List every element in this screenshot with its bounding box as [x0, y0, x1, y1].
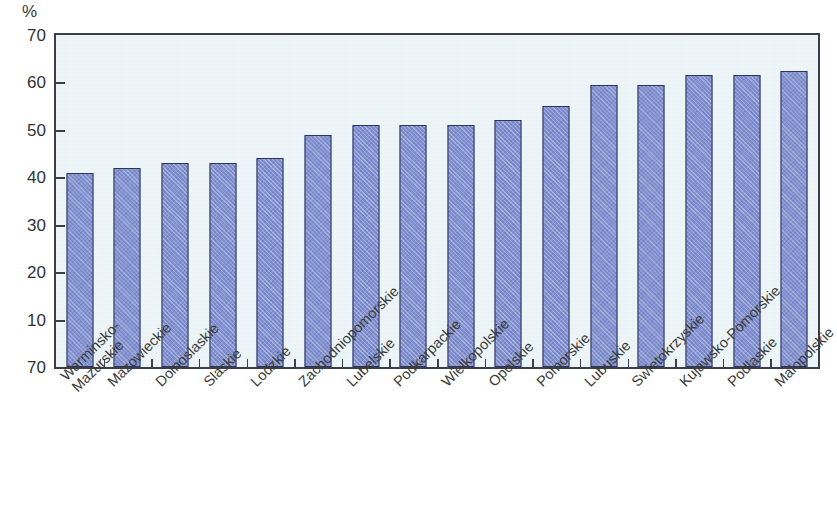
y-axis-labels: 7060504030201070	[0, 0, 46, 508]
x-axis-tick-mark	[580, 359, 582, 367]
x-axis-tick-mark	[723, 359, 725, 367]
x-axis-tick-mark	[342, 359, 344, 367]
x-axis-tick-mark	[294, 359, 296, 367]
x-axis-tick-mark	[675, 359, 677, 367]
x-axis-tick-mark	[532, 359, 534, 367]
x-axis-tick-mark	[485, 359, 487, 367]
y-axis-tick-label: 70	[2, 359, 46, 376]
x-axis-tick-mark	[628, 359, 630, 367]
x-axis-tick-mark	[437, 359, 439, 367]
x-axis-tick-mark	[199, 359, 201, 367]
x-axis-tick-mark	[389, 359, 391, 367]
x-axis-tick-mark	[770, 359, 772, 367]
y-axis-tick-label: 60	[2, 74, 46, 91]
y-axis-tick-label: 50	[2, 121, 46, 138]
y-axis-tick-label: 10	[2, 311, 46, 328]
x-axis-tick-mark	[151, 359, 153, 367]
y-axis-tick-label: 70	[2, 27, 46, 44]
x-axis-labels: Warminsko-MazurskieMazowieckieDolnoslask…	[54, 371, 820, 508]
y-axis-tick-label: 40	[2, 169, 46, 186]
x-axis-tick-mark	[247, 359, 249, 367]
y-axis-tick-label: 20	[2, 264, 46, 281]
y-axis-tick-label: 30	[2, 216, 46, 233]
